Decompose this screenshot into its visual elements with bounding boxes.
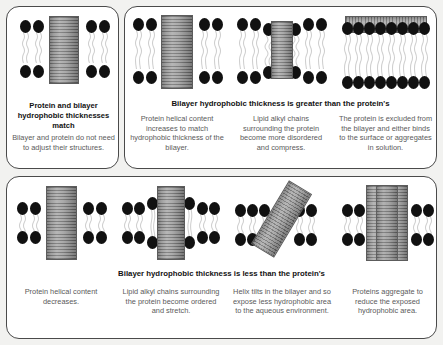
lipid-head	[134, 202, 145, 215]
lipid-head	[30, 231, 41, 244]
protein-helix	[157, 186, 185, 260]
lipid-head	[86, 20, 97, 33]
lipid-tails	[100, 33, 109, 63]
lipid-head	[386, 22, 397, 35]
lipid-tails	[398, 35, 407, 77]
lipid-head	[411, 204, 422, 217]
lipid-head	[146, 18, 157, 31]
panel-helix-tilts: Helix tilts in the bilayer and so expose…	[227, 177, 337, 338]
lipid-head	[86, 65, 97, 78]
lipid-head	[209, 202, 220, 215]
lipid-tails	[200, 31, 209, 69]
lipid-head	[133, 71, 144, 84]
lipid-head	[99, 65, 110, 78]
lipid-tails	[147, 31, 156, 69]
lipid-head	[375, 76, 386, 89]
lipid-tails	[343, 35, 352, 77]
protein-helix	[376, 185, 398, 261]
lipid-head	[316, 71, 327, 84]
lipid-head	[212, 71, 223, 84]
panel-caption: Lipid alkyl chains surrounding the prote…	[229, 114, 333, 152]
lipid-head	[354, 204, 365, 217]
lipid-head	[306, 204, 317, 217]
lipid-head	[235, 204, 246, 217]
lipid-tails	[354, 35, 363, 77]
lipid-head	[197, 202, 208, 215]
lipid-head	[237, 18, 248, 31]
lipid-head	[353, 22, 364, 35]
panel-bold-caption: Protein and bilayer hydrophobic thicknes…	[7, 101, 120, 131]
panel-caption: Lipid alkyl chains surrounding the prote…	[115, 287, 227, 316]
lipid-tails	[409, 35, 418, 77]
lipid-head	[83, 202, 94, 215]
group-thicknesses-match: Protein and bilayer hydrophobic thicknes…	[6, 6, 119, 169]
lipid-tails	[317, 31, 326, 69]
lipid-head	[423, 233, 434, 246]
lipid-head	[96, 202, 107, 215]
panel-caption: The protein is excluded from the bilayer…	[333, 114, 438, 152]
lipid-head	[354, 233, 365, 246]
panel-helical-content-increases: Protein helical content increases to mat…	[125, 7, 229, 168]
diagram-canvas: Protein and bilayer hydrophobic thicknes…	[0, 0, 443, 345]
lipid-head	[212, 18, 223, 31]
lipid-head	[303, 18, 314, 31]
panel-caption: Protein helical content decreases.	[7, 287, 115, 306]
lipid-tails	[420, 35, 429, 77]
lipid-head	[342, 233, 353, 246]
protein-helix	[46, 186, 77, 260]
lipid-head	[342, 22, 353, 35]
group-bilayer-thicker: Bilayer hydrophobic thickness is greater…	[124, 6, 437, 169]
lipid-head	[83, 231, 94, 244]
lipid-tails	[251, 31, 260, 69]
group-bilayer-thinner: Bilayer hydrophobic thickness is less th…	[6, 176, 437, 339]
lipid-tails	[365, 35, 374, 77]
lipid-head	[419, 22, 430, 35]
figure-tilted-protein-helix	[227, 181, 337, 269]
lipid-head	[408, 22, 419, 35]
lipid-tails	[87, 33, 96, 63]
protein-helix	[161, 15, 193, 89]
lipid-head	[134, 231, 145, 244]
lipid-head	[33, 20, 44, 33]
lipid-head	[197, 231, 208, 244]
lipid-head	[133, 18, 144, 31]
lipid-head	[146, 71, 157, 84]
lipid-head	[17, 202, 28, 215]
lipid-head	[423, 204, 434, 217]
lipid-tails	[134, 31, 143, 69]
lipid-head	[419, 76, 430, 89]
lipid-tails	[238, 31, 247, 69]
panel-match: Protein and bilayer hydrophobic thicknes…	[7, 7, 120, 168]
lipid-tails	[213, 31, 222, 69]
figure-protein-excluded-on-surface	[333, 11, 438, 99]
lipid-head	[411, 233, 422, 246]
lipid-head	[364, 76, 375, 89]
figure-lipids-compressed-around-protein	[229, 11, 333, 99]
panel-caption: Bilayer and protein do not need to adjus…	[7, 133, 120, 152]
lipid-head	[99, 20, 110, 33]
lipid-head	[122, 231, 133, 244]
protein-helix	[49, 16, 79, 84]
lipid-head	[237, 71, 248, 84]
lipid-tails	[304, 31, 313, 69]
protein-helix	[271, 21, 293, 79]
lipid-head	[408, 76, 419, 89]
lipid-head	[96, 231, 107, 244]
lipid-tails	[21, 33, 30, 63]
lipid-tails	[376, 35, 385, 77]
lipid-head	[199, 18, 210, 31]
panel-helical-content-decreases: Protein helical content decreases.	[7, 177, 115, 338]
lipid-head	[386, 76, 397, 89]
panel-caption: Proteins aggregate to reduce the exposed…	[337, 287, 438, 316]
lipid-head	[353, 76, 364, 89]
figure-protein-stretched-in-thick-bilayer	[125, 11, 229, 99]
lipid-head	[342, 204, 353, 217]
lipid-head	[294, 233, 305, 246]
lipid-head	[306, 233, 317, 246]
panel-lipids-disorder-compress: Lipid alkyl chains surrounding the prote…	[229, 7, 333, 168]
lipid-head	[122, 202, 133, 215]
lipid-head	[184, 236, 195, 249]
lipid-head	[250, 18, 261, 31]
lipid-head	[397, 76, 408, 89]
lipid-head	[33, 65, 44, 78]
